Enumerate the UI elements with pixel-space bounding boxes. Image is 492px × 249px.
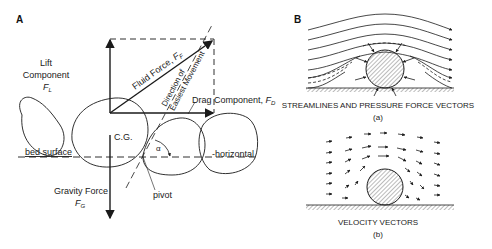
drag-label: Drag Component, FD	[192, 95, 276, 106]
lift-label-2: Component	[23, 70, 70, 80]
gravity-label: Gravity Force	[54, 186, 108, 196]
panel-b-label: B	[294, 14, 301, 25]
caption-b-sub: (b)	[373, 230, 383, 239]
lift-label-1: Lift	[40, 58, 53, 68]
sediment-force-diagram: A Lift Component FL Fluid Force, FF	[0, 0, 492, 249]
horizontal-label: -horizontal	[212, 149, 254, 159]
panel-b: B STR	[282, 14, 474, 239]
grain-circle-b	[367, 169, 403, 205]
alpha-label: α	[156, 144, 161, 153]
grain-far-right	[199, 113, 258, 173]
cg-label: C.G.	[114, 132, 133, 142]
panel-a-label: A	[16, 14, 23, 25]
grain-right-pivot	[143, 118, 205, 175]
bed-hatch-b	[306, 205, 454, 210]
lift-symbol: FL	[43, 82, 52, 93]
caption-a: STREAMLINES AND PRESSURE FORCE VECTORS	[282, 101, 474, 110]
bed-surface-label: bed surface	[25, 147, 72, 157]
bed-hatch-a	[306, 88, 454, 92]
gravity-symbol: FG	[75, 198, 86, 209]
panel-a: A Lift Component FL Fluid Force, FF	[16, 14, 276, 218]
caption-b: VELOCITY VECTORS	[338, 218, 418, 227]
pivot-label: pivot	[153, 190, 173, 200]
grain-circle-a	[366, 50, 404, 88]
caption-a-sub: (a)	[373, 113, 383, 122]
pivot-leader	[143, 157, 155, 190]
